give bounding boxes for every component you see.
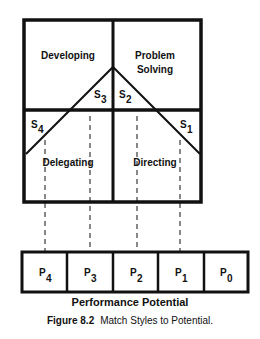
svg-text:2: 2 <box>137 273 143 284</box>
svg-text:S: S <box>31 119 38 130</box>
svg-text:4: 4 <box>46 273 52 284</box>
style-potential-diagram: Developing Problem Solving Delegating Di… <box>0 0 260 339</box>
axis-title: Performance Potential <box>0 296 260 308</box>
figure-caption-text: Match Styles to Potential. <box>100 315 213 326</box>
potential-box-p1: P1 <box>175 267 188 284</box>
style-label-s1: S1 <box>180 119 193 135</box>
svg-text:2: 2 <box>126 94 132 105</box>
svg-text:P: P <box>175 267 182 278</box>
quadrant-delegating: Delegating <box>42 157 93 168</box>
svg-text:4: 4 <box>38 124 44 135</box>
quadrant-developing: Developing <box>41 50 95 61</box>
quadrant-problem-solving-line1: Problem <box>135 50 175 61</box>
svg-text:S: S <box>180 119 187 130</box>
quadrant-problem-solving-line2: Solving <box>137 64 173 75</box>
potential-box-p3: P3 <box>84 267 97 284</box>
svg-text:P: P <box>84 267 91 278</box>
svg-text:P: P <box>39 267 46 278</box>
svg-text:S: S <box>119 89 126 100</box>
potential-box-p4: P4 <box>39 267 52 284</box>
svg-text:1: 1 <box>187 124 193 135</box>
potential-box-p2: P2 <box>130 267 143 284</box>
potential-box-p0: P0 <box>220 267 233 284</box>
figure-number: Figure 8.2 <box>47 315 94 326</box>
figure-caption: Figure 8.2Match Styles to Potential. <box>0 315 260 326</box>
svg-text:P: P <box>220 267 227 278</box>
svg-text:1: 1 <box>182 273 188 284</box>
style-label-s3: S3 <box>94 89 107 105</box>
svg-text:0: 0 <box>227 273 233 284</box>
quadrant-directing: Directing <box>133 157 176 168</box>
svg-text:3: 3 <box>91 273 97 284</box>
style-label-s2: S2 <box>119 89 132 105</box>
svg-text:S: S <box>94 89 101 100</box>
style-label-s4: S4 <box>31 119 44 135</box>
svg-text:P: P <box>130 267 137 278</box>
svg-text:3: 3 <box>101 94 107 105</box>
